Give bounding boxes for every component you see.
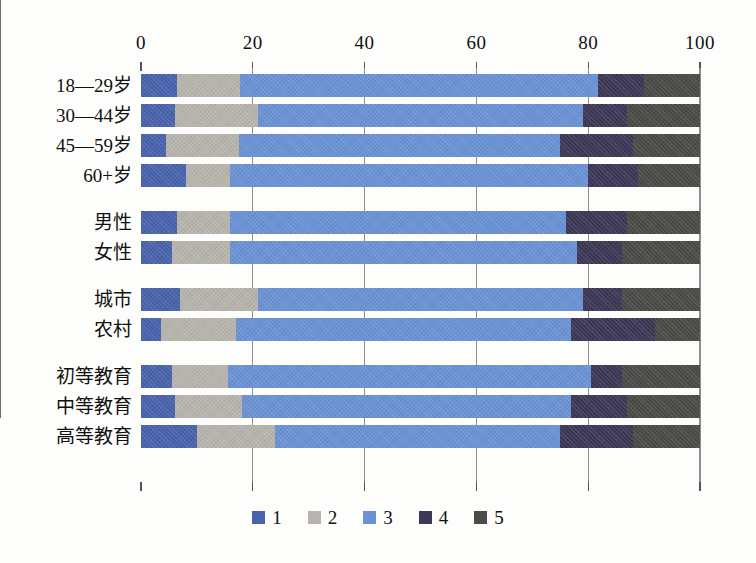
category-label: 18—29岁 (0, 74, 132, 97)
bar-segment-4 (560, 425, 633, 448)
bar-segment-5 (627, 211, 700, 234)
bar-segment-3 (236, 318, 571, 341)
bar-segment-5 (622, 288, 700, 311)
x-tick-mark (699, 482, 700, 491)
bar-segment-4 (577, 241, 622, 264)
legend-item-4[interactable]: 4 (419, 508, 449, 527)
stacked-bar (141, 211, 700, 234)
legend-label: 3 (383, 508, 393, 527)
x-tick-label: 40 (355, 32, 375, 54)
bar-segment-3 (240, 74, 598, 97)
bar-segment-4 (560, 134, 633, 157)
legend-label: 2 (328, 508, 338, 527)
legend-item-5[interactable]: 5 (474, 508, 504, 527)
bar-segment-1 (141, 318, 161, 341)
bar-segment-4 (588, 164, 638, 187)
gridline (364, 68, 365, 486)
gridline (252, 68, 253, 486)
category-label: 农村 (0, 318, 132, 341)
category-label: 初等教育 (0, 365, 132, 388)
bar-segment-2 (161, 318, 236, 341)
x-tick-mark (140, 62, 141, 71)
x-tick-label: 0 (136, 32, 146, 54)
stacked-bar (141, 134, 700, 157)
legend-swatch-icon (419, 511, 432, 524)
legend-swatch-icon (474, 511, 487, 524)
legend-item-1[interactable]: 1 (252, 508, 282, 527)
legend-label: 1 (272, 508, 282, 527)
bar-segment-2 (166, 134, 239, 157)
bar-segment-2 (175, 395, 242, 418)
bar-segment-1 (141, 425, 197, 448)
category-label: 30—44岁 (0, 104, 132, 127)
bar-segment-4 (571, 318, 655, 341)
bar-segment-2 (175, 104, 259, 127)
bar-segment-5 (633, 425, 700, 448)
bar-segment-2 (177, 74, 240, 97)
bar-segment-4 (571, 395, 627, 418)
bar-segment-1 (141, 365, 172, 388)
legend-item-2[interactable]: 2 (308, 508, 338, 527)
bar-segment-5 (633, 134, 700, 157)
gridline (588, 68, 589, 486)
bar-segment-2 (180, 288, 258, 311)
bar-segment-2 (172, 241, 231, 264)
bar-segment-1 (141, 241, 172, 264)
legend-swatch-icon (363, 511, 376, 524)
category-label: 城市 (0, 288, 132, 311)
stacked-bar (141, 425, 700, 448)
bar-segment-2 (172, 365, 228, 388)
gridline (699, 68, 700, 486)
legend-label: 5 (494, 508, 504, 527)
stacked-bar (141, 395, 700, 418)
y-axis-line (0, 0, 1, 418)
bar-segment-5 (627, 104, 700, 127)
bar-segment-3 (230, 164, 588, 187)
chart-legend: 12345 (0, 508, 756, 527)
x-tick-mark (588, 482, 589, 491)
x-tick-label: 100 (685, 32, 715, 54)
bar-segment-3 (230, 241, 577, 264)
bar-segment-1 (141, 164, 186, 187)
category-label: 中等教育 (0, 395, 132, 418)
category-label: 女性 (0, 241, 132, 264)
x-tick-mark (364, 482, 365, 491)
bar-segment-1 (141, 104, 175, 127)
bar-segment-4 (591, 365, 622, 388)
bar-segment-2 (177, 211, 230, 234)
stacked-bar (141, 104, 700, 127)
bar-segment-1 (141, 74, 177, 97)
stacked-bar-chart: 020406080100 18—29岁30—44岁45—59岁60+岁男性女性城… (0, 0, 756, 563)
stacked-bar (141, 365, 700, 388)
bar-segment-5 (622, 241, 700, 264)
bar-segment-3 (239, 134, 560, 157)
stacked-bar (141, 288, 700, 311)
bar-segment-5 (644, 74, 700, 97)
bar-segment-3 (242, 395, 572, 418)
legend-item-3[interactable]: 3 (363, 508, 393, 527)
bar-segment-1 (141, 288, 180, 311)
bar-segment-4 (598, 74, 644, 97)
bar-segment-5 (622, 365, 700, 388)
category-label: 男性 (0, 211, 132, 234)
stacked-bar (141, 318, 700, 341)
bar-segment-1 (141, 211, 177, 234)
x-tick-mark (252, 482, 253, 491)
x-tick-label: 80 (578, 32, 598, 54)
bar-segment-1 (141, 395, 175, 418)
bar-segment-4 (583, 104, 628, 127)
bar-segment-3 (258, 104, 582, 127)
legend-swatch-icon (308, 511, 321, 524)
bar-segment-5 (638, 164, 699, 187)
bar-segment-3 (275, 425, 560, 448)
stacked-bar (141, 164, 700, 187)
x-tick-mark (140, 482, 141, 491)
bar-segment-3 (228, 365, 591, 388)
stacked-bar (141, 74, 700, 97)
category-label: 高等教育 (0, 425, 132, 448)
category-label: 45—59岁 (0, 134, 132, 157)
bar-segment-3 (230, 211, 565, 234)
bar-segment-4 (583, 288, 622, 311)
legend-swatch-icon (252, 511, 265, 524)
bar-segment-5 (627, 395, 700, 418)
